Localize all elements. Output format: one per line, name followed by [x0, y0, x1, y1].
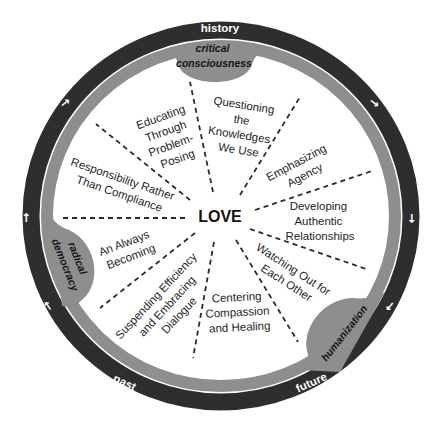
- sector-suspending: Suspending Efficiency and Embracing Dial…: [113, 248, 223, 362]
- sector-always-becoming: An Always Becoming: [97, 227, 159, 272]
- arrow-icon: ↑: [407, 211, 417, 225]
- ring-label-history: history: [201, 22, 240, 34]
- center-label: LOVE: [198, 208, 242, 225]
- sector-centering: Centering Compassion and Healing: [204, 289, 273, 334]
- sector-questioning: Questioning the Knowledges We Use: [205, 94, 279, 161]
- sector-developing: Developing Authentic Relationships: [285, 200, 354, 242]
- sector-emphasizing: Emphasizing Agency: [264, 140, 338, 196]
- arrow-icon: ↑: [21, 211, 31, 225]
- love-pedagogy-diagram: LOVE history past future ↑ ↑ ↑ ↑ ↑ ↑ cri…: [0, 0, 436, 422]
